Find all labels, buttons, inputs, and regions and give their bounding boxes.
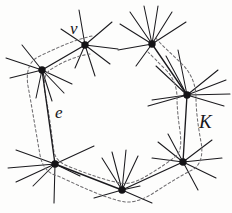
graph-figure: v e K [0, 0, 232, 213]
pendant-edge [183, 162, 216, 178]
pendant-edge [54, 164, 55, 203]
pendant-edge [10, 70, 42, 78]
graph-canvas [0, 0, 232, 213]
pendant-edge [33, 164, 55, 186]
pendant-edge [85, 45, 95, 76]
pendant-edge [42, 70, 72, 84]
pendant-edge [120, 24, 152, 44]
pendant-edge [187, 80, 226, 95]
pendant-edge [55, 146, 94, 164]
vertex-v5 [179, 158, 186, 165]
pendant-edge [136, 44, 152, 66]
path-edges-group [42, 44, 187, 190]
pendant-edge [102, 158, 122, 190]
pendant-edge [187, 94, 230, 95]
contour-inner-strand [44, 52, 181, 183]
pendant-edge [183, 140, 212, 162]
pendant-edges-v7 [118, 6, 186, 66]
pendant-edge [152, 95, 187, 100]
pendant-edges-v5 [152, 134, 222, 190]
pendant-edge [148, 95, 187, 106]
pendant-edges-v2 [6, 45, 72, 101]
edge-v4-v5 [122, 162, 183, 190]
edge-v5-v6 [183, 95, 187, 162]
vertex-v4 [118, 186, 125, 193]
contour-outer-strand [27, 36, 202, 202]
vertex-v3 [51, 160, 58, 167]
pendant-edge [36, 70, 42, 98]
pendant-edge [118, 44, 152, 50]
edge-v1-v2 [42, 45, 85, 70]
pendant-edges-v4 [94, 150, 152, 203]
vertex-v [81, 41, 88, 48]
pendant-edge [187, 70, 218, 95]
vertex-v6 [183, 91, 190, 98]
pendant-edge [16, 150, 55, 164]
pendant-edge [85, 22, 112, 45]
pendant-edge [112, 152, 122, 190]
edge-v3-v4 [55, 164, 122, 190]
pendant-edge [152, 22, 186, 44]
pendant-edge [183, 158, 222, 162]
vertex-label-v: v [70, 20, 78, 37]
contour-K [27, 36, 202, 202]
pendant-edge [94, 190, 122, 198]
edge-e [42, 70, 55, 164]
pendant-edge [187, 95, 224, 106]
vertex-v2 [38, 66, 45, 73]
edge-label-e: e [55, 104, 63, 121]
region-label-k: K [199, 112, 212, 131]
vertex-v7 [148, 40, 155, 47]
